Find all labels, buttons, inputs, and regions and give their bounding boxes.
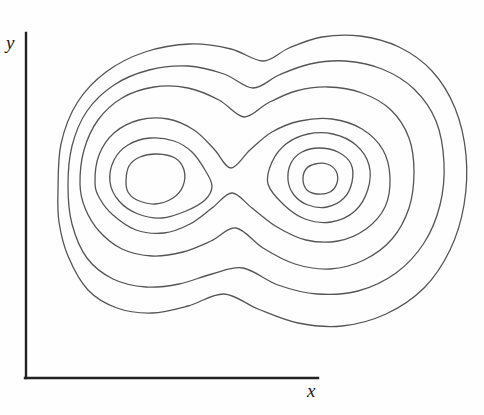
contour-curve [58, 35, 467, 327]
contour-curve [303, 163, 338, 194]
y-axis-label: y [6, 33, 14, 52]
contour-plot-figure: y x [0, 0, 484, 415]
contour-curve [68, 61, 444, 295]
x-axis-label: x [307, 381, 315, 400]
contour-curve [267, 133, 370, 223]
contour-curve [95, 118, 390, 242]
contour-curve [288, 148, 353, 207]
contour-curve [110, 138, 212, 218]
contour-curve [80, 86, 414, 269]
contour-curves-group [58, 35, 467, 327]
contour-curve [126, 154, 185, 204]
contour-plot-canvas [0, 0, 484, 415]
